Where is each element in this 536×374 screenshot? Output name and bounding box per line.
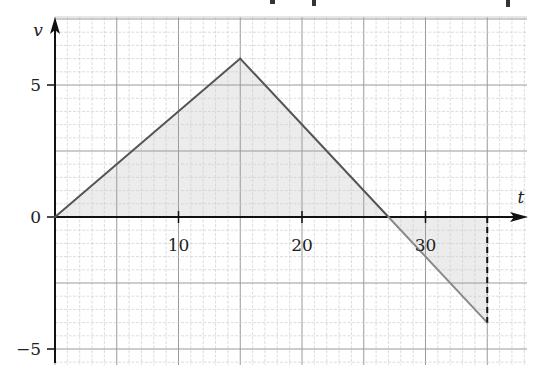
velocity-time-graph: 10203050−5vt (0, 0, 536, 374)
y-axis-label: v (33, 20, 43, 40)
cropped-text-above (270, 0, 510, 7)
x-axis-label: t (518, 187, 525, 207)
y-tick-label: −5 (16, 339, 41, 359)
y-tick-label: 0 (30, 207, 41, 227)
y-tick-label: 5 (30, 75, 41, 95)
x-tick-label: 10 (168, 235, 190, 255)
x-tick-label: 30 (415, 235, 437, 255)
x-tick-label: 20 (291, 235, 313, 255)
